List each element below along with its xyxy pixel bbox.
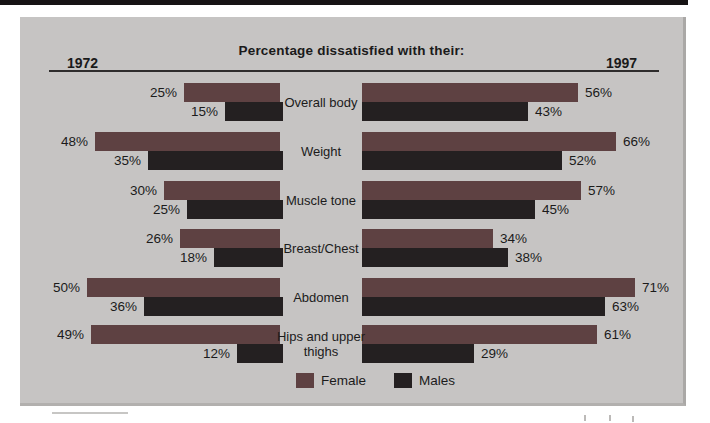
value-label-1972-male: 12%	[176, 344, 230, 363]
bar-1997-male	[362, 200, 535, 219]
bar-1972-female	[180, 229, 280, 248]
value-label-1972-female: 49%	[30, 325, 84, 344]
bar-1972-male	[225, 102, 283, 121]
bar-1997-female	[362, 181, 581, 200]
value-label-1972-male: 35%	[87, 151, 141, 170]
bar-1972-male	[214, 248, 283, 267]
category-label: Overall body	[276, 83, 366, 121]
value-label-1972-male: 25%	[126, 200, 180, 219]
value-label-1972-female: 50%	[26, 278, 80, 297]
bar-1972-male	[148, 151, 283, 170]
value-label-1972-female: 26%	[119, 229, 173, 248]
chart-panel: Percentage dissatisfied with their: 1972…	[20, 17, 686, 406]
female-legend-swatch-icon	[296, 373, 314, 388]
value-label-1997-male: 38%	[515, 248, 542, 267]
bar-1997-male	[362, 102, 528, 121]
category-label: Abdomen	[276, 278, 366, 316]
male-legend-label: Males	[419, 373, 455, 388]
bar-1997-male	[362, 248, 508, 267]
value-label-1997-female: 56%	[585, 83, 612, 102]
bar-1972-male	[187, 200, 283, 219]
category-label: Hips and upper thighs	[276, 325, 366, 363]
figure-page: Percentage dissatisfied with their: 1972…	[0, 0, 710, 423]
scan-artifact-tick	[632, 416, 634, 422]
value-label-1972-male: 36%	[83, 297, 137, 316]
value-label-1972-male: 15%	[164, 102, 218, 121]
bar-1972-female	[87, 278, 280, 297]
bar-1997-female	[362, 132, 616, 151]
category-label: Breast/Chest	[276, 229, 366, 267]
scan-artifact-tick	[609, 415, 611, 421]
bar-1972-female	[164, 181, 280, 200]
male-legend-swatch-icon	[394, 373, 412, 388]
value-label-1997-male: 45%	[542, 200, 569, 219]
bar-1997-male	[362, 297, 605, 316]
bar-1997-male	[362, 151, 562, 170]
bar-1972-male	[144, 297, 283, 316]
scan-artifact-dash	[52, 412, 128, 414]
value-label-1997-female: 57%	[588, 181, 615, 200]
legend: Female Males	[296, 372, 455, 389]
value-label-1997-male: 63%	[612, 297, 639, 316]
value-label-1997-female: 66%	[623, 132, 650, 151]
scan-artifact-top-bar	[0, 0, 688, 5]
bar-1972-female	[95, 132, 280, 151]
scan-artifact-tick	[584, 415, 586, 421]
value-label-1997-male: 43%	[535, 102, 562, 121]
category-label: Muscle tone	[276, 181, 366, 219]
value-label-1997-male: 52%	[569, 151, 596, 170]
bar-1972-female	[184, 83, 280, 102]
bar-1997-female	[362, 325, 597, 344]
value-label-1972-female: 30%	[103, 181, 157, 200]
bar-1997-male	[362, 344, 474, 363]
bar-1997-female	[362, 229, 493, 248]
value-label-1972-female: 48%	[34, 132, 88, 151]
value-label-1972-male: 18%	[153, 248, 207, 267]
bar-1997-female	[362, 278, 635, 297]
value-label-1997-male: 29%	[481, 344, 508, 363]
bars-area: 25%15%56%43%Overall body48%35%66%52%Weig…	[20, 17, 683, 403]
category-label: Weight	[276, 132, 366, 170]
female-legend-label: Female	[321, 373, 366, 388]
bar-1972-female	[91, 325, 280, 344]
value-label-1972-female: 25%	[123, 83, 177, 102]
value-label-1997-female: 71%	[642, 278, 669, 297]
bar-1997-female	[362, 83, 578, 102]
value-label-1997-female: 61%	[604, 325, 631, 344]
value-label-1997-female: 34%	[500, 229, 527, 248]
